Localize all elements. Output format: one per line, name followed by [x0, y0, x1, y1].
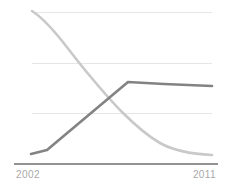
- declining-series-line: [32, 11, 212, 155]
- rising-series-line: [31, 82, 212, 154]
- x-axis-label-end: 2011: [193, 169, 216, 181]
- series-rising: [31, 82, 212, 154]
- line-chart-figure: 2002 2011: [0, 0, 232, 188]
- series-declining: [32, 11, 212, 155]
- x-axis-label-start: 2002: [16, 169, 40, 181]
- gridlines: [32, 13, 212, 114]
- chart-plot-area: [0, 0, 232, 188]
